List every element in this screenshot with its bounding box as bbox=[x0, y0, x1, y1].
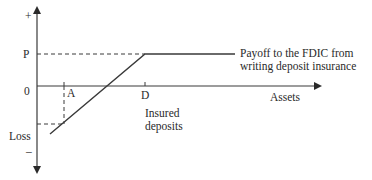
tick-d-label: D bbox=[141, 89, 149, 102]
diagram-graphics bbox=[0, 0, 372, 180]
fdic-payoff-diagram: + P 0 Loss – A D Assets Insured deposits… bbox=[0, 0, 372, 180]
tick-a-label: A bbox=[67, 87, 75, 100]
loss-label: Loss bbox=[9, 130, 31, 143]
assets-label: Assets bbox=[270, 91, 300, 104]
p-label: P bbox=[23, 48, 29, 61]
payoff-label-line2: writing deposit insurance bbox=[240, 60, 356, 73]
minus-sign: – bbox=[26, 145, 32, 158]
plus-sign: + bbox=[25, 10, 32, 23]
payoff-label-line1: Payoff to the FDIC from bbox=[240, 47, 354, 60]
origin-label: 0 bbox=[24, 85, 30, 98]
insured-deposits-line2: deposits bbox=[145, 120, 183, 133]
insured-deposits-line1: Insured bbox=[145, 107, 180, 120]
